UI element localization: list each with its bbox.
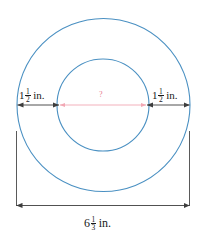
geometry-figure: 112in. 112in. 613in. ? [0, 0, 204, 242]
right-band-whole: 1 [152, 89, 158, 101]
outer-diameter-fraction: 13 [91, 216, 97, 233]
right-band-label: 112in. [152, 88, 178, 105]
right-band-fraction: 12 [158, 88, 164, 105]
right-band-unit: in. [166, 89, 177, 101]
right-band-denominator: 2 [158, 96, 164, 104]
left-band-label: 112in. [19, 88, 45, 105]
left-band-fraction: 12 [25, 88, 31, 105]
left-band-whole: 1 [19, 89, 25, 101]
left-band-unit: in. [33, 89, 44, 101]
figure-canvas [0, 0, 204, 242]
outer-diameter-whole: 6 [84, 216, 90, 230]
outer-diameter-denominator: 3 [91, 224, 97, 232]
outer-diameter-label: 613in. [84, 216, 111, 233]
outer-diameter-unit: in. [99, 216, 111, 230]
left-band-denominator: 2 [25, 96, 31, 104]
inner-diameter-unknown-label: ? [99, 91, 103, 99]
